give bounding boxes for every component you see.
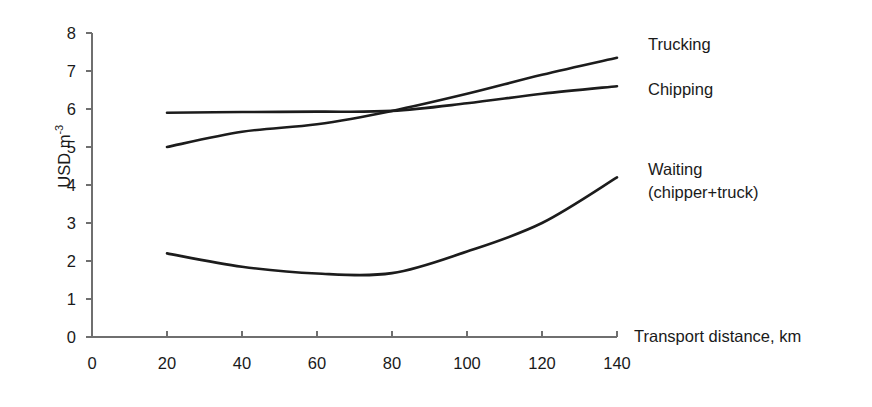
y-tick-label: 7	[28, 63, 76, 80]
x-tick-label: 40	[233, 355, 251, 372]
series-label-trucking: Trucking	[648, 33, 711, 56]
series-label-waiting: Waiting (chipper+truck)	[648, 158, 759, 205]
chart-figure: 012345678 020406080100120140 USD m-3 Tra…	[0, 0, 872, 407]
x-tick-label: 20	[158, 355, 176, 372]
x-tick-label: 120	[528, 355, 556, 372]
series-line-chipping	[167, 86, 617, 113]
series-label-trucking-text: Trucking	[648, 35, 711, 53]
y-tick-label: 0	[28, 329, 76, 346]
y-tick-label: 2	[28, 253, 76, 270]
series-label-chipping: Chipping	[648, 78, 713, 101]
x-tick-label: 100	[453, 355, 481, 372]
x-tick-label: 0	[87, 355, 96, 372]
axes-group	[86, 33, 617, 337]
y-axis-title-exponent: -3	[53, 125, 65, 135]
x-axis-title: Transport distance, km	[634, 328, 801, 345]
series-line-waiting-chipper-truck	[167, 177, 617, 275]
x-tick-label: 140	[603, 355, 631, 372]
series-label-waiting-line2: (chipper+truck)	[648, 181, 759, 204]
series-label-chipping-text: Chipping	[648, 80, 713, 98]
x-axis-ticks	[92, 331, 617, 337]
y-axis-title-text: USD m	[55, 135, 73, 188]
y-axis-title: USD m-3	[56, 86, 73, 226]
x-tick-label: 60	[308, 355, 326, 372]
y-tick-label: 8	[28, 25, 76, 42]
x-tick-label: 80	[383, 355, 401, 372]
series-group	[167, 58, 617, 275]
series-line-trucking	[167, 58, 617, 147]
y-tick-label: 1	[28, 291, 76, 308]
series-label-waiting-line1: Waiting	[648, 158, 759, 181]
y-axis-ticks	[86, 33, 92, 337]
